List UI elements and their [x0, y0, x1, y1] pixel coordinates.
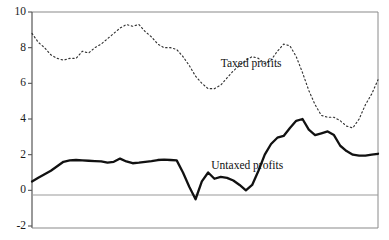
chart-container: 1086420-2 Taxed profits Untaxed profits	[0, 0, 389, 240]
y-axis-tick-label: 6	[0, 77, 26, 88]
y-axis-tick-label: 0	[0, 184, 26, 195]
chart-axes	[28, 12, 378, 228]
y-axis-tick-label: 2	[0, 149, 26, 160]
y-axis-tick-label: -2	[0, 220, 26, 231]
y-axis-tick-label: 4	[0, 113, 26, 124]
series-line-untaxed-profits	[32, 119, 378, 199]
line-chart	[0, 0, 389, 240]
series-label-untaxed-profits: Untaxed profits	[211, 159, 283, 171]
y-axis-tick-label: 10	[0, 6, 26, 17]
chart-series-group	[32, 24, 378, 199]
series-label-taxed-profits: Taxed profits	[221, 57, 282, 69]
series-line-taxed-profits	[32, 24, 378, 127]
y-axis-tick-label: 8	[0, 42, 26, 53]
